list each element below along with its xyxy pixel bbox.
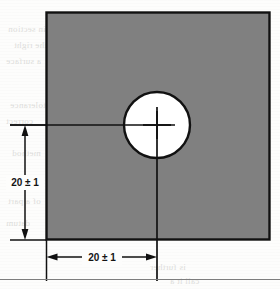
vertical-dim-arrow-top: [22, 125, 29, 136]
horizontal-dim-arrow-right: [146, 254, 157, 261]
scanned-page: in sectionthe righta surfacetolerancecor…: [0, 0, 280, 289]
page-horizontal-rule: [0, 279, 280, 280]
horizontal-dimension-label: 20 ± 1: [88, 252, 116, 263]
vertical-dim-arrow-bottom: [22, 229, 29, 240]
horizontal-dim-arrow-left: [47, 254, 58, 261]
vertical-dimension-label: 20 ± 1: [11, 177, 39, 188]
engineering-drawing: 20 ± 1 20 ± 1: [0, 0, 280, 289]
